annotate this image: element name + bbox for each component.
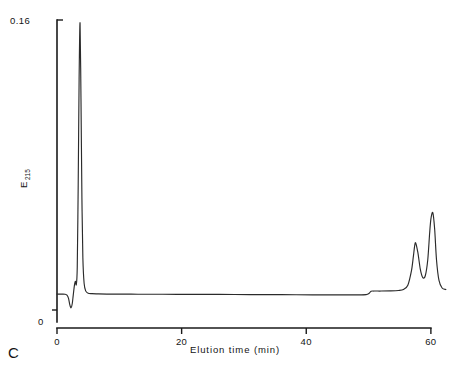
x-axis-tick-label: 20 xyxy=(176,336,187,347)
y-axis-max-label: 0.16 xyxy=(10,15,30,26)
panel-label: C xyxy=(8,344,19,361)
x-axis-tick-label: 0 xyxy=(54,336,60,347)
absorbance-trace xyxy=(57,23,446,308)
x-axis-title: Elution time (min) xyxy=(190,344,280,355)
x-axis-ticks xyxy=(57,328,431,334)
y-axis-min-label: 0 xyxy=(38,316,44,327)
x-axis-tick-label: 40 xyxy=(301,336,312,347)
y-axis-title-group: E 215 xyxy=(18,169,31,188)
x-axis-tick-label: 60 xyxy=(425,336,436,347)
y-axis-title-subscript: 215 xyxy=(24,169,31,180)
chromatogram-figure: 0204060 0.16 0 E 215 Elution time (min) … xyxy=(0,0,453,369)
y-axis-title: E xyxy=(18,181,29,188)
chromatogram-plot: 0204060 0.16 0 E 215 Elution time (min) … xyxy=(0,0,453,369)
